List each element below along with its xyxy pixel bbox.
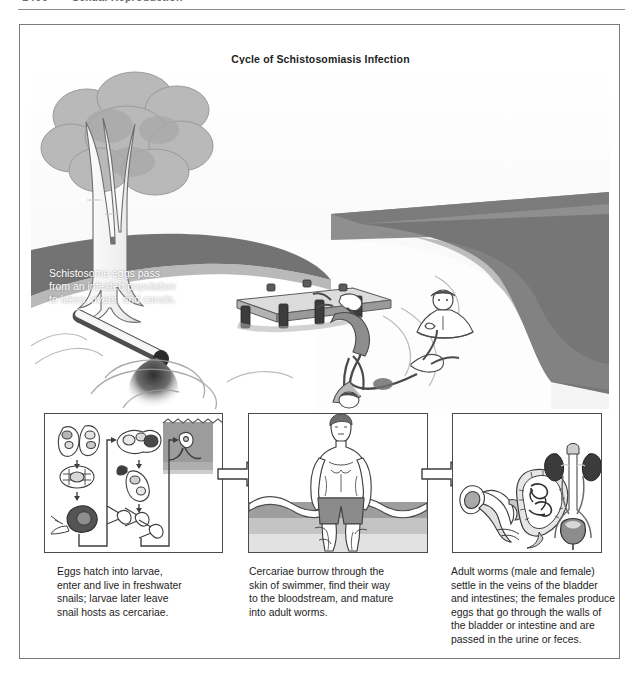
snail-larval-stage-panel [44,413,223,553]
running-head-rule [18,9,625,10]
sporocyst-cluster [117,430,161,453]
miracidium [60,466,94,488]
running-head-title: Sexual Reproduction [72,0,183,3]
figure-frame: Cycle of Schistosomiasis Infection [19,24,620,659]
caption-human-infection: Cercariae burrow through the skin of swi… [249,565,449,619]
adult-worm-organs-panel [452,413,602,553]
figure-page: 1406 Sexual Reproduction Cycle of Schist… [0,0,641,685]
running-head: 1406 Sexual Reproduction [0,0,641,7]
human-infection-panel [248,413,428,553]
submerged-head [339,392,359,408]
main-scene-illustration: Schistosome eggs pass from an infested p… [31,64,609,409]
caption-adult-worms: Adult worms (male and female) settle in … [451,565,641,647]
scene-caption: Schistosome eggs pass from an infested p… [49,267,279,307]
page-folio: 1406 [22,0,48,3]
caption-snail-stage: Eggs hatch into larvae, enter and live i… [57,565,247,619]
panel-row [31,413,609,553]
